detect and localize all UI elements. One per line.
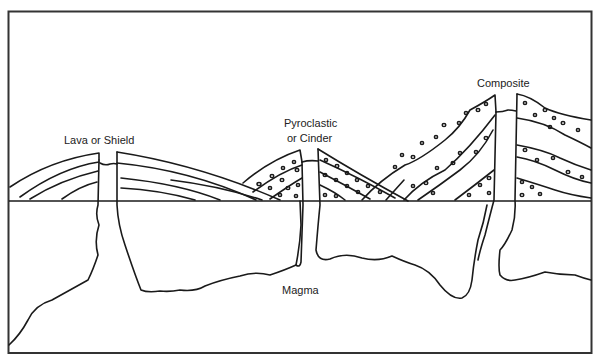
label-composite: Composite: [477, 77, 530, 90]
volcano-diagram: [0, 0, 598, 360]
shield-volcano: [9, 152, 301, 345]
label-cinder-line1: Pyroclastic: [284, 117, 337, 130]
cinder-volcano: [243, 149, 487, 298]
label-shield: Lava or Shield: [64, 134, 134, 147]
label-cinder-line2: or Cinder: [287, 132, 332, 145]
label-magma: Magma: [282, 284, 319, 297]
